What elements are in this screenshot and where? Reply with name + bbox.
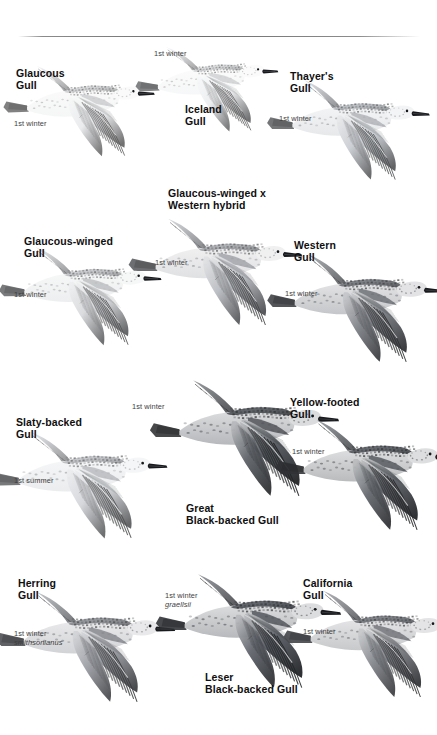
age-text-california-gull: 1st winter [303,627,336,636]
species-name-great-black-backed-gull: Great Black-backed Gull [186,503,279,526]
age-label-great-black-backed-gull: 1st winter [132,403,165,412]
gull-identification-plate: Glaucous Gull1st winterIceland Gull1st w… [0,0,437,735]
age-text-glaucous-winged-x-western-hybrid: 1st winter [155,258,188,267]
age-label-western-gull: 1st winter [285,290,318,299]
subspecies-label-lesser-black-backed-gull: graellsii [165,601,198,610]
species-name-glaucous-winged-x-western-hybrid: Glaucous-winged x Western hybrid [168,188,266,211]
age-text-glaucous-gull: 1st winter [14,119,47,128]
age-label-yellow-footed-gull: 1st winter [292,448,325,457]
bird-illustration-yellow-footed-gull [272,408,437,540]
age-label-glaucous-winged-gull: 1st winter [14,291,47,300]
age-text-glaucous-winged-gull: 1st winter [14,290,47,299]
age-label-glaucous-winged-x-western-hybrid: 1st winter [155,259,188,268]
age-text-slaty-backed-gull: 1st summer [14,476,54,485]
species-name-thayers-gull: Thayer's Gull [290,71,334,94]
species-name-glaucous-gull: Glaucous Gull [16,68,65,91]
age-text-iceland-gull: 1st winter [154,49,187,58]
bird-illustration-western-gull [262,243,437,371]
species-name-glaucous-winged-gull: Glaucous-winged Gull [24,236,113,259]
age-text-western-gull: 1st winter [285,289,318,298]
species-name-western-gull: Western Gull [294,240,336,263]
species-name-lesser-black-backed-gull: Leser Black-backed Gull [205,672,298,695]
age-text-thayers-gull: 1st winter [279,114,312,123]
age-label-glaucous-gull: 1st winter [14,120,47,129]
age-text-herring-gull: 1st winter [14,629,47,638]
species-name-yellow-footed-gull: Yellow-footed Gull [290,397,360,420]
age-label-iceland-gull: 1st winter [154,50,187,59]
subspecies-label-herring-gull: smithsonianus [14,639,63,648]
age-text-lesser-black-backed-gull: 1st winter [165,591,198,600]
age-label-thayers-gull: 1st winter [279,115,312,124]
age-label-california-gull: 1st winter [303,628,336,637]
age-label-lesser-black-backed-gull: 1st wintergraellsii [165,592,198,609]
age-label-slaty-backed-gull: 1st summer [14,477,54,486]
species-name-herring-gull: Herring Gull [18,578,56,601]
species-name-california-gull: California Gull [303,578,352,601]
age-text-great-black-backed-gull: 1st winter [132,402,165,411]
bird-illustration-thayers-gull [256,70,437,188]
age-label-herring-gull: 1st wintersmithsonianus [14,630,63,647]
species-name-slaty-backed-gull: Slaty-backed Gull [16,417,82,440]
age-text-yellow-footed-gull: 1st winter [292,447,325,456]
species-name-iceland-gull: Iceland Gull [185,104,222,127]
